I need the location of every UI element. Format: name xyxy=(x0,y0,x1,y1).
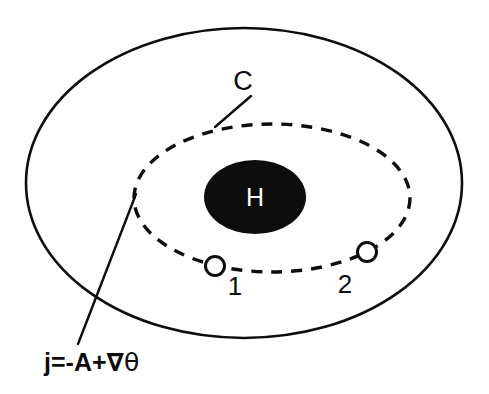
contour-label-leader-line xyxy=(215,96,251,127)
junction-1-marker xyxy=(206,257,225,276)
equation-symbol-j: j xyxy=(43,348,51,376)
physics-diagram-figure: C H 1 2 j=-A+∇θ xyxy=(0,0,489,394)
equation-symbol-theta: θ xyxy=(124,348,139,377)
junction-2-label: 2 xyxy=(338,269,352,299)
equation-symbol-A: A xyxy=(74,348,92,376)
equation-minus-sign: - xyxy=(66,348,74,376)
junction-1-label: 1 xyxy=(228,271,242,301)
supercurrent-leader-line xyxy=(78,194,136,344)
hole-label-H: H xyxy=(246,183,264,211)
equation-equals-sign: = xyxy=(51,348,66,376)
diagram-canvas: C H 1 2 j=-A+∇θ xyxy=(0,0,489,394)
equation-plus-sign: + xyxy=(92,348,107,376)
junction-2-marker xyxy=(358,243,377,262)
equation-nabla-operator-icon: ∇ xyxy=(107,348,125,377)
supercurrent-equation: j=-A+∇θ xyxy=(43,348,139,377)
contour-label-C: C xyxy=(233,66,253,96)
